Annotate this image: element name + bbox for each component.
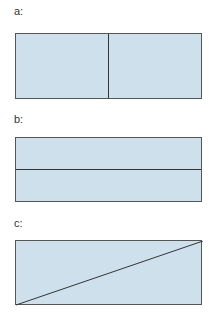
panel-a-label: a:	[14, 5, 23, 17]
vertical-divider	[108, 34, 109, 98]
panel-b-label: b:	[14, 113, 23, 125]
horizontal-divider	[16, 169, 201, 170]
rectangle-c	[15, 240, 202, 305]
panel-c-label: c:	[14, 217, 23, 229]
diagonal-divider	[16, 241, 203, 306]
rectangle-a	[15, 33, 202, 99]
rectangle-b	[15, 137, 202, 202]
